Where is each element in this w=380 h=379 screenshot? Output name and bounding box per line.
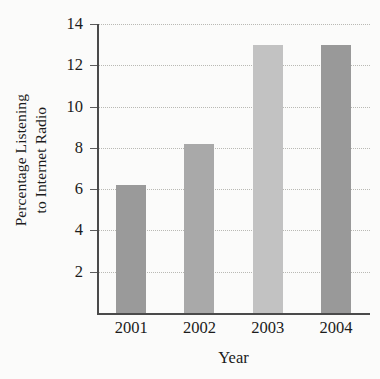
- y-axis-tick-label: 14: [40, 14, 83, 34]
- gridline: [97, 24, 370, 25]
- bar: [184, 144, 214, 313]
- x-axis-tick-label: 2003: [236, 318, 300, 338]
- x-axis-tick-label: 2001: [99, 318, 163, 338]
- y-axis-tick-label: 4: [40, 220, 83, 240]
- x-axis-tick-label: 2004: [304, 318, 368, 338]
- bar: [321, 45, 351, 313]
- bar: [116, 185, 146, 313]
- bar-chart: Percentage Listening to Internet Radio 2…: [0, 0, 380, 379]
- x-axis-title: Year: [97, 348, 370, 368]
- y-axis-tick-label: 12: [40, 55, 83, 75]
- y-axis-tick-label: 10: [40, 97, 83, 117]
- y-axis-tick-label: 6: [40, 179, 83, 199]
- bar: [253, 45, 283, 313]
- y-axis-tick-label: 2: [40, 262, 83, 282]
- x-axis-line: [97, 313, 370, 315]
- y-axis-tick-label: 8: [40, 138, 83, 158]
- y-axis-title-line-1: Percentage Listening: [11, 94, 31, 226]
- plot-area: [97, 24, 370, 313]
- x-axis-tick-label: 2002: [167, 318, 231, 338]
- y-axis-line: [97, 24, 99, 313]
